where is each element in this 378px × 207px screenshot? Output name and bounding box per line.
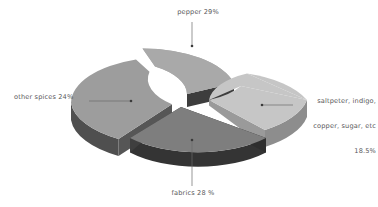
leader-dot-pepper — [191, 45, 194, 48]
slice-label-saltpeter-line3: 18.5% — [296, 147, 376, 155]
slice-label-other-spices: other spices 24% — [14, 93, 104, 101]
leader-dot-fabrics — [191, 139, 194, 142]
leader-dot-saltpeter — [261, 104, 264, 107]
slice-label-saltpeter: saltpeter, indigo, copper, sugar, etc 18… — [296, 81, 376, 171]
slice-label-saltpeter-line2: copper, sugar, etc — [296, 122, 376, 130]
slice-label-pepper: pepper 29% — [160, 8, 236, 16]
slice-label-fabrics: fabrics 28 % — [148, 189, 238, 197]
slice-label-saltpeter-line1: saltpeter, indigo, — [296, 97, 376, 105]
leader-dot-other-spices — [130, 100, 133, 103]
pie-chart-figure: pepper 29% saltpeter, indigo, copper, su… — [0, 0, 378, 207]
